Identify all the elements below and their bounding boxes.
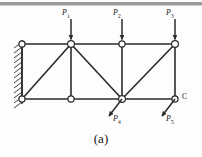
joint-bottom-left [19,96,25,102]
label-load-5: P5 [166,115,174,125]
label-joint-c: C [182,93,187,101]
label-load-1-subscript: 1 [67,13,70,19]
label-load-3-subscript: 3 [171,13,174,19]
label-load-4: P4 [113,115,121,125]
truss-members [22,44,175,99]
joint-bottom-panel-1 [68,96,74,102]
member-diagonal-3 [122,44,175,99]
joint-top-panel-2 [119,41,125,47]
figure-caption: (a) [0,131,202,147]
truss-joints [19,41,179,103]
joint-top-left [19,41,25,47]
joint-top-panel-1 [68,41,75,48]
joint-top-right [172,41,179,48]
label-load-2-subscript: 2 [118,13,121,19]
label-load-4-subscript: 4 [118,119,121,125]
label-load-2: P2 [113,9,121,19]
member-diagonal-2 [71,44,122,99]
label-load-1: P1 [62,9,70,19]
label-load-5-subscript: 5 [171,119,174,125]
label-load-3: P3 [166,9,174,19]
figure-container: P1 P2 P3 P4 P5 C (a) [0,0,202,157]
member-diagonal-1 [22,44,71,99]
